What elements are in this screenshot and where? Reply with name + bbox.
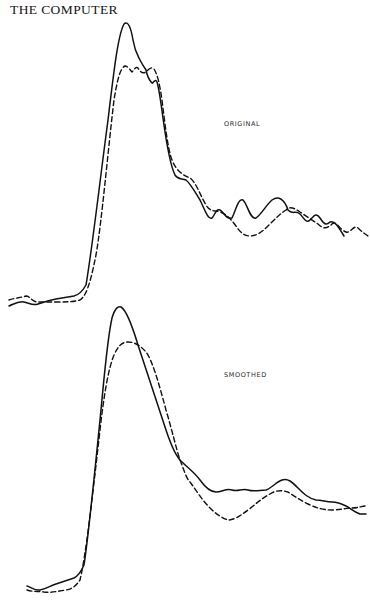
original-dashed-curve xyxy=(9,66,368,302)
original-solid-curve xyxy=(9,23,344,306)
figure-canvas xyxy=(0,0,370,600)
smoothed-label: SMOOTHED xyxy=(224,371,267,379)
smoothed-dashed-curve xyxy=(27,342,366,592)
smoothed-solid-curve xyxy=(27,307,366,590)
original-label: ORIGINAL xyxy=(224,120,260,128)
